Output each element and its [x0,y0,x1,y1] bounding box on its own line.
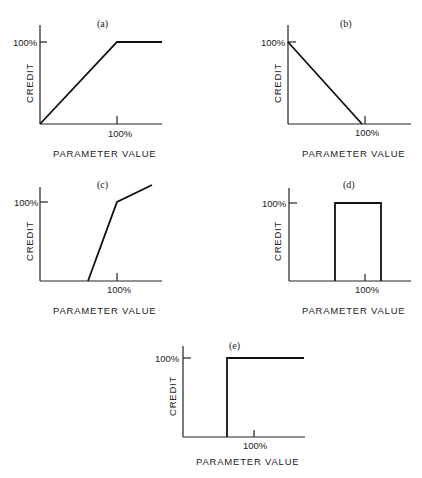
panel-d-y-label: CREDIT [272,221,283,261]
panel-b: (b) 100% 100% CREDIT PARAMETER VALUE [261,18,411,159]
panel-a-y-tick-label: 100% [13,37,38,48]
panel-c-x-label: PARAMETER VALUE [53,305,157,316]
panel-e-y-tick-label: 100% [155,353,180,364]
credit-function-figure: (a) 100% 100% CREDIT PARAMETER VALUE (b)… [0,0,422,478]
panel-b-y-label: CREDIT [272,63,283,103]
panel-c-y-label: CREDIT [24,221,35,261]
panel-e-x-tick-label: 100% [243,440,268,451]
panel-d-x-label: PARAMETER VALUE [302,305,406,316]
panel-a-curve [40,42,162,124]
panel-a-x-tick-label: 100% [108,128,133,139]
panel-a-y-label: CREDIT [24,63,35,103]
panel-a-title: (a) [97,18,108,30]
panel-e-curve [227,358,304,437]
panel-d-y-tick-label: 100% [262,198,287,209]
panel-b-title: (b) [340,18,352,30]
panel-e-title: (e) [229,340,240,352]
panel-d-x-tick-label: 100% [355,284,380,295]
panel-b-y-tick-label: 100% [261,37,286,48]
panel-e-y-label: CREDIT [167,376,178,416]
panel-a-x-label: PARAMETER VALUE [53,148,157,159]
panel-a: (a) 100% 100% CREDIT PARAMETER VALUE [13,18,162,159]
panel-d-title: (d) [343,179,355,191]
panel-c-y-tick-label: 100% [14,197,39,208]
panel-b-x-tick-label: 100% [355,127,380,138]
panel-e: (e) 100% 100% CREDIT PARAMETER VALUE [155,340,305,467]
panel-e-x-label: PARAMETER VALUE [196,456,300,467]
panel-d: (d) 100% 100% CREDIT PARAMETER VALUE [262,179,411,316]
panel-d-curve [335,203,381,281]
panel-b-curve [288,42,362,124]
panel-c-x-tick-label: 100% [107,284,132,295]
panel-c: (c) 100% 100% CREDIT PARAMETER VALUE [14,179,162,316]
panel-c-curve [88,185,152,281]
panel-b-x-label: PARAMETER VALUE [302,148,406,159]
panel-c-title: (c) [97,179,108,191]
